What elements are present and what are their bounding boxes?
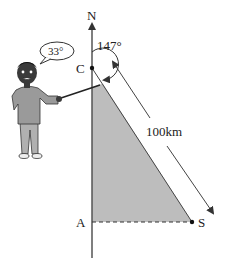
- point-a-label: A: [76, 215, 86, 230]
- speech-bubble-text: 33°: [48, 45, 63, 57]
- point-c-label: C: [76, 61, 85, 76]
- bearing-label: 147°: [97, 38, 122, 53]
- person-figure: [12, 62, 100, 159]
- speech-bubble: 33°: [40, 42, 74, 64]
- bearing-diagram: N C 147° 100km A S 33°: [0, 0, 225, 266]
- distance-label: 100km: [146, 124, 182, 139]
- shaded-triangle: [92, 84, 192, 222]
- point-c: [90, 66, 94, 70]
- point-s: [190, 220, 194, 224]
- north-label: N: [87, 8, 97, 23]
- point-s-label: S: [198, 215, 205, 230]
